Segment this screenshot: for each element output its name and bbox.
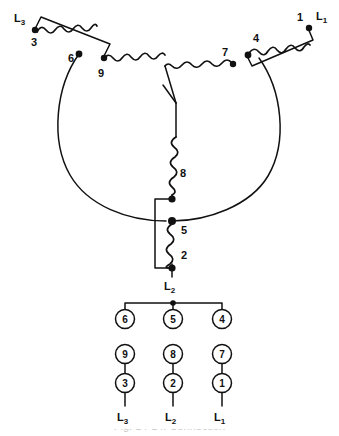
node-dot-9 xyxy=(101,55,107,61)
left-phase-group xyxy=(35,17,176,221)
coil-5-2 xyxy=(166,224,174,268)
figure-caption-text: Fig. 14-14. Connection xyxy=(0,429,339,432)
schematic-label-l3: L3 xyxy=(14,12,26,27)
terminal-label-8: 8 xyxy=(170,349,176,360)
terminal-lead-label-l3: L3 xyxy=(117,411,129,426)
node-dot-5 xyxy=(168,217,176,225)
right-phase-group xyxy=(165,28,313,221)
center-phase-group xyxy=(155,103,178,277)
node-dot-4 xyxy=(245,52,252,59)
coil-9-center xyxy=(104,53,165,61)
node-dot-2 xyxy=(168,264,175,271)
schematic-label-l2: L2 xyxy=(164,280,176,295)
left-arc xyxy=(58,54,166,221)
terminal-board: 6 5 4 9 8 7 3 2 1 xyxy=(116,300,232,426)
terminal-label-6: 6 xyxy=(122,314,128,325)
terminal-lead-label-l2: L2 xyxy=(165,411,177,426)
terminal-label-9: 9 xyxy=(122,349,128,360)
schematic-label-4: 4 xyxy=(253,32,260,44)
node-dot-8 xyxy=(168,195,175,202)
schematic-label-3: 3 xyxy=(31,36,37,48)
schematic-label-8: 8 xyxy=(180,167,186,179)
terminal-lead-label-l1: L1 xyxy=(214,411,226,426)
schematic-label-5: 5 xyxy=(181,224,187,236)
node-dot-1 xyxy=(306,25,312,31)
terminal-bus-junction-dot xyxy=(170,300,176,306)
motor-winding-diagram: L3 3 6 9 L1 1 4 7 8 5 2 L2 6 5 4 xyxy=(0,0,339,436)
terminal-label-4: 4 xyxy=(219,314,225,325)
schematic-label-9: 9 xyxy=(98,67,104,79)
right-center-lead xyxy=(165,66,176,103)
node-dot-6 xyxy=(76,51,83,58)
figure-caption-clipped: Fig. 14-14. Connection xyxy=(0,429,339,436)
schematic-label-l1: L1 xyxy=(316,10,328,25)
coil-center-8 xyxy=(169,137,177,195)
schematic-label-2: 2 xyxy=(181,249,187,261)
schematic-canvas: L3 3 6 9 L1 1 4 7 8 5 2 L2 6 5 4 xyxy=(0,0,339,436)
coil-3-6 xyxy=(37,24,97,33)
terminal-label-1: 1 xyxy=(219,378,225,389)
terminal-label-2: 2 xyxy=(170,378,176,389)
terminal-label-3: 3 xyxy=(122,378,128,389)
terminal-label-5: 5 xyxy=(170,314,176,325)
schematic-label-6: 6 xyxy=(68,52,74,64)
coil-7-center xyxy=(165,60,232,68)
left-top-bar xyxy=(35,17,110,56)
node-dot-7 xyxy=(230,61,236,67)
schematic-label-7: 7 xyxy=(222,46,228,58)
schematic-label-1: 1 xyxy=(297,11,303,23)
terminal-label-7: 7 xyxy=(219,349,225,360)
node-dot-3 xyxy=(32,27,38,33)
right-arc xyxy=(172,58,280,221)
